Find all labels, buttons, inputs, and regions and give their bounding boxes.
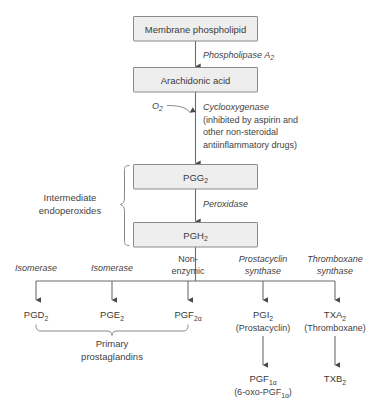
branch-product-3: PGF2α [174,309,201,322]
label-intermediate-line1: Intermediate [44,192,97,203]
branch-enzyme-2: Isomerase [91,263,133,273]
arrow-oxygen-input [167,106,190,113]
branch-enzyme-4-line2: synthase [245,266,281,276]
label-arachidonic-acid: Arachidonic acid [161,75,231,86]
branch-product-4-alias: (Prostacyclin) [236,323,291,333]
metabolite-pgf1alpha-alias: (6-oxo-PGF1α) [234,387,292,399]
branch-enzyme-3-line2: enzymic [171,266,205,276]
label-cox-inhibition-line2: other non-steroidal [203,127,278,137]
branch-product-5-alias: (Thromboxane) [304,323,366,333]
branch-product-1: PGD2 [24,309,49,322]
branch-enzyme-3-line1: Non- [178,254,198,264]
label-primary-line2: prostaglandins [81,351,143,362]
branch-enzyme-4-line1: Prostacyclin [239,254,288,264]
branch-enzyme-5-line2: synthase [317,266,353,276]
metabolite-pgf1alpha: PGF1α [249,373,276,386]
branch-product-4: PGI2 [253,309,273,322]
label-cyclooxygenase: Cyclooxygenase [203,102,269,112]
label-cox-inhibition-line3: antiinflammatory drugs) [203,140,297,150]
metabolite-txb2: TXB2 [324,373,346,386]
label-phospholipase-a2: Phospholipase A2 [203,50,274,62]
label-peroxidase: Peroxidase [203,199,248,209]
label-intermediate-line2: endoperoxides [39,205,102,216]
branch-product-5: TXA2 [324,309,346,322]
branch-product-2: PGE2 [100,309,124,322]
label-cox-inhibition-line1: (inhibited by aspirin and [203,115,298,125]
brace-primary-prostaglandins [36,325,188,336]
label-primary-line1: Primary [96,338,129,349]
branch-enzyme-5-line1: Thromboxane [307,254,363,264]
label-oxygen: O2 [152,101,163,113]
label-membrane-phospholipid: Membrane phospholipid [145,24,246,35]
pathway-svg: Membrane phospholipid Arachidonic acid P… [0,0,385,402]
pathway-diagram: Membrane phospholipid Arachidonic acid P… [0,0,385,402]
brace-intermediate-endoperoxides [121,166,130,246]
branch-enzyme-1: Isomerase [15,263,57,273]
